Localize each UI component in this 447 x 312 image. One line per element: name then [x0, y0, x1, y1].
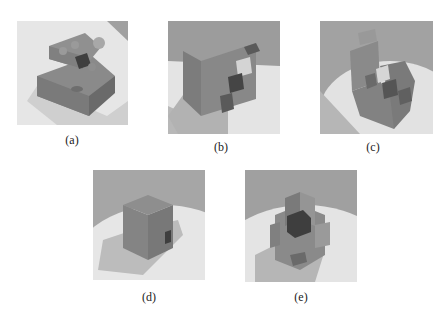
render-image-d [93, 170, 205, 280]
render-image-c [320, 21, 433, 134]
caption-c: (c) [353, 140, 393, 155]
running-header-cut [0, 0, 447, 4]
caption-b: (b) [201, 140, 241, 155]
render-image-e [245, 170, 357, 282]
running-title-stub [42, 0, 120, 3]
caption-d: (d) [129, 290, 169, 305]
caption-e: (e) [281, 290, 321, 305]
render-image-a [17, 21, 128, 125]
render-image-b [168, 21, 280, 134]
caption-a: (a) [52, 133, 92, 148]
page-number-stub [2, 0, 16, 3]
